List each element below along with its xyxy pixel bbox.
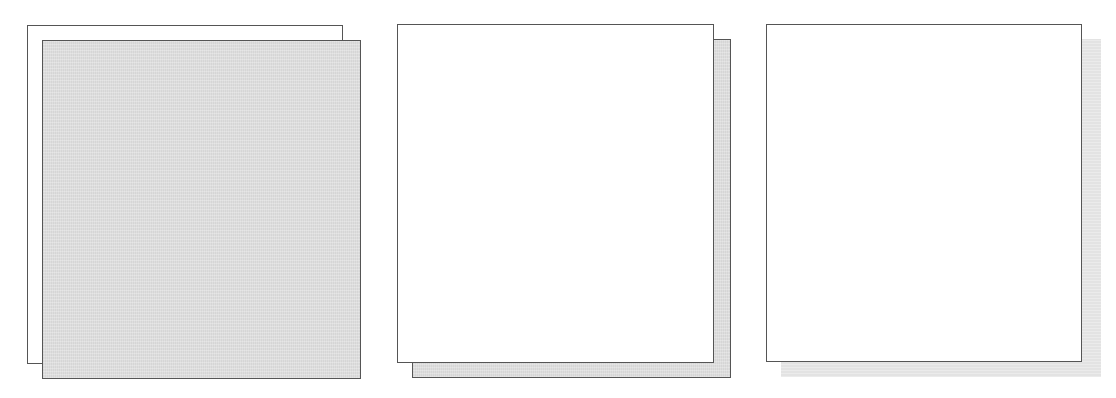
panel-2-front-rectangle — [397, 24, 714, 363]
panel-1-front-rectangle — [42, 40, 361, 379]
figure-canvas: Three panels illustrating layered rectan… — [0, 0, 1116, 398]
panel-3-front-rectangle — [766, 24, 1082, 362]
